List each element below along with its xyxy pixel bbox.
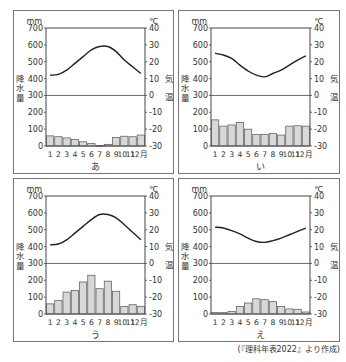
month-label: 4: [72, 318, 77, 327]
month-label: 4: [237, 318, 242, 327]
right-axis-title: 気: [165, 242, 173, 252]
left-axis-tick: 200: [28, 276, 43, 285]
chart-title: え: [256, 330, 265, 340]
left-axis-tick: 200: [193, 276, 208, 285]
precipitation-bar: [269, 133, 276, 146]
left-axis-tick: 200: [28, 108, 43, 117]
left-axis-tick: 100: [193, 125, 208, 134]
precipitation-bar: [245, 303, 252, 314]
precipitation-bar: [80, 142, 87, 146]
month-label: 8: [270, 318, 275, 327]
month-label: 12月: [130, 150, 148, 159]
precipitation-bar: [236, 122, 243, 146]
right-axis-tick: 30: [149, 41, 159, 50]
right-axis-title: 気: [330, 242, 339, 252]
precipitation-bar: [245, 129, 252, 146]
precipitation-bar: [71, 140, 78, 146]
month-label: 6: [254, 318, 259, 327]
right-axis-tick: 0: [314, 91, 319, 100]
precipitation-bar: [104, 281, 111, 314]
right-axis-title: 気: [330, 74, 339, 84]
left-axis-tick: 100: [193, 293, 208, 302]
chart-svg: mm℃7006005004003002001000403020100-10-20…: [14, 11, 173, 173]
right-axis-title: 温: [165, 92, 173, 102]
right-axis-tick: 30: [314, 41, 324, 50]
right-axis-tick: 0: [149, 91, 154, 100]
month-label: 5: [81, 318, 86, 327]
chart-title: あ: [91, 162, 100, 172]
precipitation-bar: [220, 126, 227, 146]
month-label: 8: [270, 150, 275, 159]
precipitation-bar: [80, 282, 87, 314]
month-label: 6: [89, 150, 94, 159]
month-label: 7: [262, 150, 267, 159]
left-axis-tick: 700: [193, 24, 208, 33]
climate-chart-i: mm℃7006005004003002001000403020100-10-20…: [178, 10, 340, 174]
precipitation-bar: [278, 306, 285, 314]
precipitation-bar: [137, 135, 144, 146]
precipitation-bar: [113, 138, 120, 146]
precipitation-bar: [269, 301, 276, 314]
left-axis-tick: 300: [193, 259, 208, 268]
left-axis-title: 量: [16, 93, 25, 103]
right-axis-tick: 30: [149, 209, 159, 218]
left-axis-title: 量: [181, 93, 190, 103]
month-label: 5: [81, 150, 86, 159]
right-axis-tick: -30: [314, 310, 327, 319]
precipitation-bar: [47, 136, 54, 146]
right-axis-title: 温: [165, 260, 173, 270]
precipitation-bar: [212, 120, 219, 146]
month-label: 1: [48, 150, 53, 159]
left-axis-tick: 700: [28, 24, 43, 33]
left-axis-tick: 300: [193, 91, 208, 100]
month-label: 1: [48, 318, 53, 327]
precipitation-bar: [278, 135, 285, 146]
temperature-line: [215, 53, 306, 77]
month-label: 7: [97, 150, 102, 159]
month-label: 8: [105, 150, 110, 159]
right-axis-tick: 10: [149, 75, 159, 84]
precipitation-bar: [253, 299, 260, 314]
right-axis-tick: -10: [149, 108, 162, 117]
right-axis-tick: -30: [149, 310, 162, 319]
left-axis-tick: 400: [28, 243, 43, 252]
temperature-line: [215, 227, 306, 242]
right-axis-tick: 10: [314, 243, 324, 252]
temperature-line: [50, 214, 141, 245]
chart-svg: mm℃7006005004003002001000403020100-10-20…: [179, 11, 339, 173]
month-label: 3: [64, 318, 69, 327]
right-axis-tick: 40: [149, 192, 159, 201]
right-axis-tick: 0: [149, 259, 154, 268]
left-axis-tick: 600: [193, 209, 208, 218]
left-axis-tick: 400: [28, 75, 43, 84]
precipitation-bar: [302, 126, 309, 146]
precipitation-bar: [286, 309, 293, 314]
left-axis-tick: 600: [28, 41, 43, 50]
precipitation-bar: [47, 304, 54, 314]
right-axis-tick: -30: [149, 142, 162, 151]
left-axis-title: 降: [181, 242, 190, 252]
month-label: 3: [64, 150, 69, 159]
precipitation-bar: [55, 137, 62, 146]
left-axis-tick: 600: [28, 209, 43, 218]
right-axis-tick: -20: [149, 125, 162, 134]
precipitation-bar: [55, 301, 62, 314]
left-axis-title: 量: [181, 261, 190, 271]
left-axis-tick: 700: [193, 192, 208, 201]
left-axis-tick: 0: [203, 142, 208, 151]
right-axis-tick: 40: [314, 24, 324, 33]
precipitation-bar: [96, 289, 103, 314]
precipitation-bar: [294, 126, 301, 146]
month-label: 6: [254, 150, 259, 159]
right-axis-tick: 10: [149, 243, 159, 252]
left-axis-tick: 700: [28, 192, 43, 201]
left-axis-tick: 300: [28, 91, 43, 100]
right-axis-tick: 20: [314, 58, 324, 67]
right-axis-tick: -10: [314, 108, 327, 117]
precipitation-bar: [261, 135, 268, 146]
month-label: 2: [221, 150, 226, 159]
right-axis-tick: 20: [314, 226, 324, 235]
chart-title: う: [91, 330, 100, 340]
month-label: 8: [105, 318, 110, 327]
left-axis-tick: 0: [38, 142, 43, 151]
